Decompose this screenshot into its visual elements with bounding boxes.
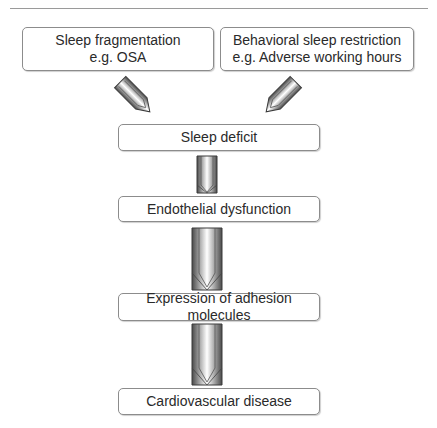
node-label: Sleep deficit bbox=[181, 129, 257, 146]
node-label-line2: e.g. Adverse working hours bbox=[233, 49, 402, 66]
node-label: Cardiovascular disease bbox=[146, 393, 292, 410]
node-sleep-deficit: Sleep deficit bbox=[118, 124, 320, 151]
arrow-down-right-icon bbox=[112, 74, 158, 120]
arrow-down-icon bbox=[191, 227, 223, 291]
node-adhesion-molecules: Expression of adhesion molecules bbox=[118, 293, 320, 321]
node-label-line1: Behavioral sleep restriction bbox=[233, 32, 401, 49]
arrow-down-icon bbox=[191, 323, 223, 386]
node-label-line1: Sleep fragmentation bbox=[55, 32, 180, 49]
node-behavioral-restriction: Behavioral sleep restriction e.g. Advers… bbox=[220, 27, 414, 71]
arrow-down-left-icon bbox=[258, 74, 304, 120]
node-label: Endothelial dysfunction bbox=[147, 201, 291, 218]
node-label: Expression of adhesion molecules bbox=[119, 290, 319, 324]
node-label-line2: e.g. OSA bbox=[90, 49, 147, 66]
top-divider bbox=[10, 8, 428, 9]
node-endothelial-dysfunction: Endothelial dysfunction bbox=[118, 196, 320, 222]
node-sleep-fragmentation: Sleep fragmentation e.g. OSA bbox=[22, 27, 214, 71]
arrow-down-icon bbox=[196, 155, 218, 194]
node-cardiovascular-disease: Cardiovascular disease bbox=[118, 388, 320, 415]
